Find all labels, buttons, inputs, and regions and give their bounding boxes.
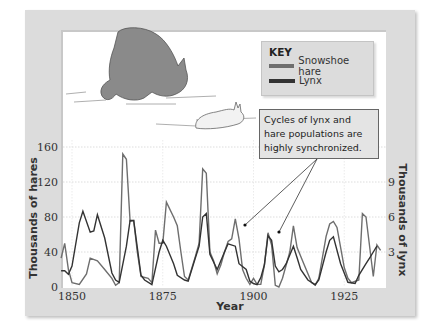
y-right-axis-title: Thousands of lynx xyxy=(396,164,409,277)
legend-label-lynx: Lynx xyxy=(299,75,322,86)
pointer-line-lynx xyxy=(279,159,317,232)
legend-item-hare: Snowshoe hare xyxy=(269,58,373,73)
y-left-tick-labels: 04080120160 xyxy=(37,141,58,294)
y-left-tick-label: 0 xyxy=(51,281,58,294)
pointer-line-hare xyxy=(245,159,317,225)
pointer-dot-lynx xyxy=(277,230,280,233)
hare-line xyxy=(61,154,381,287)
annotation-callout: Cycles of lynx and hare populations are … xyxy=(259,109,379,159)
annotation-pointers xyxy=(243,159,317,234)
series-layer xyxy=(61,154,381,287)
y-right-tick-label: 6 xyxy=(388,211,395,224)
x-axis-title: Year xyxy=(215,300,244,313)
gridlines xyxy=(63,140,386,287)
y-left-tick-label: 120 xyxy=(37,176,58,189)
y-left-tick-label: 160 xyxy=(37,141,58,154)
legend-label-hare: Snowshoe hare xyxy=(298,55,373,77)
y-left-axis-title: Thousands of hares xyxy=(27,157,40,279)
hare-swatch xyxy=(269,64,294,68)
x-tick-label: 1850 xyxy=(58,290,86,303)
y-right-tick-labels: 369 xyxy=(388,176,395,259)
y-right-tick-label: 3 xyxy=(388,246,395,259)
lynx-swatch xyxy=(269,79,295,83)
y-left-tick-label: 40 xyxy=(44,246,58,259)
legend-key: KEY Snowshoe hare Lynx xyxy=(261,41,374,96)
y-left-tick-label: 80 xyxy=(44,211,58,224)
x-tick-label: 1925 xyxy=(330,290,358,303)
x-tick-labels: 1850187519001925 xyxy=(58,290,358,303)
x-tick-label: 1875 xyxy=(149,290,177,303)
pointer-dot-hare xyxy=(243,223,246,226)
y-right-tick-label: 9 xyxy=(388,176,395,189)
x-tick-label: 1900 xyxy=(240,290,268,303)
